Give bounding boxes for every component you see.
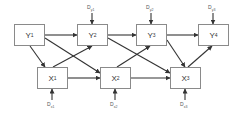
disturbance-dx1: Dx1 — [47, 101, 54, 109]
disturbance-dy1: Dy1 — [87, 4, 94, 12]
node-y2: Y2 — [77, 24, 108, 46]
node-y1: Y1 — [14, 24, 45, 46]
node-x3: X3 — [170, 67, 201, 89]
dx2-sub: x2 — [114, 105, 118, 109]
disturbance-dy2: Dy2 — [146, 4, 153, 12]
disturbance-dx3: Dx3 — [180, 101, 187, 109]
edge-y3-x3 — [167, 40, 185, 67]
node-y2-sub: 2 — [94, 32, 97, 38]
dy2-sub: y2 — [150, 8, 154, 12]
node-x1: X1 — [37, 67, 68, 89]
dx1-sub: x1 — [51, 105, 55, 109]
node-x2: X2 — [100, 67, 131, 89]
node-x1-sub: 1 — [54, 75, 57, 81]
dx3-sub: x3 — [184, 105, 188, 109]
node-x3-sub: 3 — [187, 75, 190, 81]
path-diagram: Y1 Y2 Y3 Y4 X1 X2 X3 Dy1 Dy2 Dy3 Dx1 Dx2… — [0, 0, 240, 116]
disturbance-dy3: Dy3 — [208, 4, 215, 12]
node-y4-sub: 4 — [215, 32, 218, 38]
diagram-edges — [0, 0, 240, 116]
node-y3-sub: 3 — [153, 32, 156, 38]
dy1-sub: y1 — [91, 8, 95, 12]
disturbance-dx2: Dx2 — [110, 101, 117, 109]
node-y4: Y4 — [198, 24, 229, 46]
edge-x2-y3 — [117, 46, 150, 67]
node-x2-sub: 2 — [117, 75, 120, 81]
edge-x3-y4 — [188, 46, 212, 67]
edge-y1-x1 — [30, 46, 45, 67]
node-y1-sub: 1 — [31, 32, 34, 38]
dy3-sub: y3 — [212, 8, 216, 12]
node-y3: Y3 — [136, 24, 167, 46]
